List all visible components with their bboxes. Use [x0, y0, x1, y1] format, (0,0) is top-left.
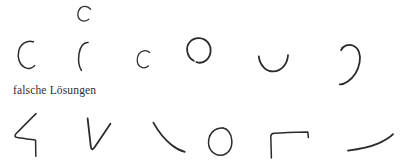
shape-small-c	[137, 51, 149, 68]
caption-falsche-loesungen: falsche Lösungen	[13, 84, 96, 97]
shape-narrow-paren	[79, 43, 88, 71]
shape-diagonal-curve	[153, 123, 184, 152]
row-correct-attempts-strokes	[18, 38, 360, 84]
shape-u-bowl	[259, 55, 288, 71]
row-wrong-solutions-strokes	[15, 114, 393, 158]
shape-flat-tail	[348, 134, 393, 150]
shape-c-open-left	[18, 41, 34, 68]
model-letter-c	[78, 6, 91, 21]
shape-v	[88, 118, 111, 149]
shape-closed-o	[209, 128, 232, 155]
handwriting-worksheet: falsche Lösungen	[0, 0, 403, 168]
shape-angular-hook	[15, 114, 36, 157]
shape-reversed-c	[340, 45, 360, 85]
shape-bracket	[271, 132, 309, 158]
shape-near-closed-circle	[187, 38, 211, 63]
